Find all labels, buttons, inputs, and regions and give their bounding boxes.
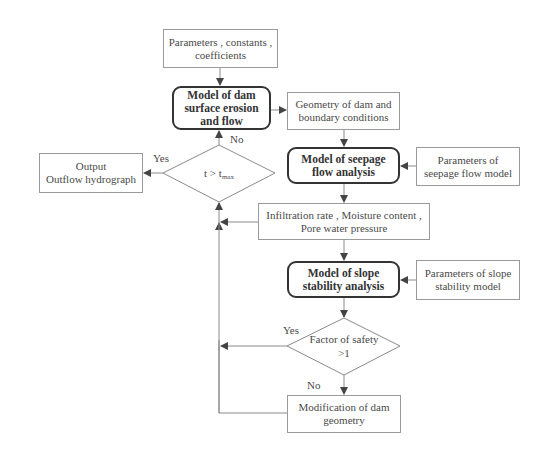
infiltration-text: Infiltration rate , Moisture content , P…	[262, 209, 426, 235]
output-title: Output	[76, 160, 107, 173]
slope-params-text: Parameters of slope stability model	[420, 267, 516, 293]
time-check-subscript: max	[222, 173, 234, 181]
slope-params-box: Parameters of slope stability model	[416, 260, 520, 300]
params-constants-text: Parameters , constants , coefficients	[167, 36, 274, 62]
safety-check-line1: Factor of safety	[300, 332, 388, 346]
seepage-model-box: Model of seepage flow analysis	[287, 147, 400, 184]
modification-text: Modification of dam geometry	[291, 401, 397, 427]
geometry-text: Geometry of dam and boundary conditions	[291, 98, 396, 124]
erosion-model-text: Model of dam surface erosion and flow	[177, 89, 266, 128]
output-subtitle: Outflow hydrograph	[46, 173, 136, 186]
infiltration-box: Infiltration rate , Moisture content , P…	[258, 203, 430, 240]
time-yes-label: Yes	[153, 152, 169, 164]
seepage-params-text: Parameters of seepage flow model	[420, 154, 516, 180]
time-check-label: t > tmax	[183, 166, 255, 184]
output-box: Output Outflow hydrograph	[39, 153, 143, 193]
seepage-model-text: Model of seepage flow analysis	[292, 153, 395, 179]
time-no-label: No	[230, 133, 243, 145]
modification-box: Modification of dam geometry	[287, 395, 401, 433]
safety-yes-label: Yes	[283, 324, 299, 336]
seepage-params-box: Parameters of seepage flow model	[416, 147, 520, 186]
slope-model-text: Model of slope stability analysis	[292, 267, 395, 293]
erosion-model-box: Model of dam surface erosion and flow	[172, 86, 271, 130]
params-constants-box: Parameters , constants , coefficients	[163, 29, 278, 68]
slope-model-box: Model of slope stability analysis	[287, 261, 400, 298]
safety-check-label: Factor of safety >1	[300, 332, 388, 360]
geometry-box: Geometry of dam and boundary conditions	[287, 92, 400, 130]
safety-no-label: No	[307, 379, 320, 391]
safety-check-line2: >1	[300, 346, 388, 360]
